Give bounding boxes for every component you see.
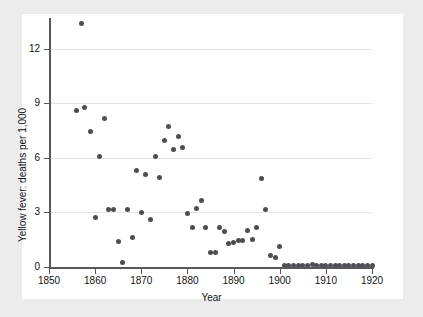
x-tick-label-1910: 1910 (306, 276, 346, 286)
data-point (79, 21, 84, 26)
data-point (171, 147, 176, 152)
x-tick-1890 (234, 269, 235, 274)
y-tick-label-0: 0 (18, 262, 40, 272)
x-tick-1910 (326, 269, 327, 274)
x-axis-title: Year (0, 292, 423, 303)
data-point (143, 172, 148, 177)
y-axis-title: Yellow fever: deaths per 1,000 (17, 108, 28, 242)
x-tick-1860 (95, 269, 96, 274)
y-tick-6 (44, 158, 49, 159)
data-point (250, 237, 255, 242)
gridline-y-3 (49, 212, 372, 213)
data-point (139, 210, 144, 215)
plot-data-region (49, 20, 372, 267)
data-point (213, 250, 218, 255)
data-point (194, 206, 199, 211)
data-point (97, 154, 102, 159)
data-point (93, 215, 98, 220)
x-tick-1880 (187, 269, 188, 274)
data-point (176, 134, 181, 139)
gridline-y-9 (49, 103, 372, 104)
data-point (130, 235, 135, 240)
y-tick-3 (44, 212, 49, 213)
x-tick-1900 (280, 269, 281, 274)
data-point (153, 154, 158, 159)
data-point (185, 211, 190, 216)
x-tick-label-1850: 1850 (29, 276, 69, 286)
x-tick-1920 (372, 269, 373, 274)
scatter-plot-figure: 036912 18501860187018801890190019101920 … (0, 0, 423, 317)
gridline-y-12 (49, 49, 372, 50)
data-point (203, 225, 208, 230)
data-point (254, 225, 259, 230)
data-point (116, 239, 121, 244)
x-tick-label-1920: 1920 (352, 276, 392, 286)
y-tick-0 (44, 267, 49, 268)
x-tick-label-1900: 1900 (260, 276, 300, 286)
data-point (134, 168, 139, 173)
data-point (190, 225, 195, 230)
y-tick-12 (44, 49, 49, 50)
data-point (240, 238, 245, 243)
data-point (277, 244, 282, 249)
x-tick-label-1890: 1890 (214, 276, 254, 286)
data-point (273, 255, 278, 260)
data-point (74, 108, 79, 113)
x-tick-label-1880: 1880 (167, 276, 207, 286)
data-point (162, 138, 167, 143)
data-point (157, 175, 162, 180)
y-tick-label-12: 12 (18, 44, 40, 54)
data-point (259, 176, 264, 181)
data-point (88, 129, 93, 134)
data-point (180, 145, 185, 150)
data-point (102, 116, 107, 121)
data-point (82, 105, 87, 110)
data-point (199, 198, 204, 203)
x-tick-label-1860: 1860 (75, 276, 115, 286)
data-point (148, 217, 153, 222)
x-tick-1870 (141, 269, 142, 274)
y-axis-line (49, 18, 51, 269)
y-tick-9 (44, 103, 49, 104)
data-point (222, 229, 227, 234)
data-point (245, 228, 250, 233)
data-point (166, 124, 171, 129)
data-point (120, 260, 125, 265)
x-tick-1850 (49, 269, 50, 274)
x-tick-label-1870: 1870 (121, 276, 161, 286)
